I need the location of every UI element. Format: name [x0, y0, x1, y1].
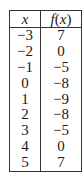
function-value-table: x f(x) −3 7 −2 0 −1 −5 0 −8 1 −9 2 −8 3 …: [9, 10, 82, 172]
cell-x: −1: [10, 60, 41, 76]
table-row: −3 7: [10, 28, 81, 44]
cell-fx: 7: [41, 28, 81, 44]
cell-x: −2: [10, 44, 41, 60]
cell-fx: −5: [41, 60, 81, 76]
table-row: 5 7: [10, 155, 81, 171]
cell-fx: 0: [41, 139, 81, 155]
header-fx-close: ): [66, 11, 71, 27]
cell-x: 1: [10, 92, 41, 108]
cell-fx: 7: [41, 155, 81, 171]
table-row: 4 0: [10, 139, 81, 155]
table-row: 1 −9: [10, 92, 81, 108]
cell-x: 0: [10, 76, 41, 92]
table-row: −2 0: [10, 44, 81, 60]
header-x: x: [10, 11, 41, 27]
cell-x: −3: [10, 28, 41, 44]
table-row: 2 −8: [10, 107, 81, 123]
table-row: 3 −5: [10, 123, 81, 139]
cell-x: 2: [10, 107, 41, 123]
cell-x: 5: [10, 155, 41, 171]
cell-fx: −9: [41, 92, 81, 108]
cell-fx: −8: [41, 107, 81, 123]
cell-x: 3: [10, 123, 41, 139]
cell-x: 4: [10, 139, 41, 155]
table-header-row: x f(x): [10, 11, 81, 28]
cell-fx: 0: [41, 44, 81, 60]
table-row: −1 −5: [10, 60, 81, 76]
cell-fx: −5: [41, 123, 81, 139]
header-fx: f(x): [41, 11, 81, 27]
table-body: −3 7 −2 0 −1 −5 0 −8 1 −9 2 −8 3 −5 4 0: [10, 28, 81, 171]
table-row: 0 −8: [10, 76, 81, 92]
cell-fx: −8: [41, 76, 81, 92]
